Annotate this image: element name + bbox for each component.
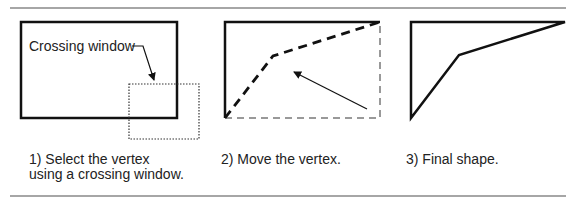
original-rectangle bbox=[21, 22, 177, 118]
crossing-window bbox=[129, 84, 199, 139]
final-shape bbox=[411, 22, 565, 118]
label-leader-arrow bbox=[132, 46, 154, 80]
caption-step-1: 1) Select the vertex using a crossing wi… bbox=[29, 152, 184, 182]
crossing-window-label: Crossing window bbox=[29, 38, 136, 54]
caption-step-3: 3) Final shape. bbox=[406, 152, 499, 167]
panel-2-move-vertex bbox=[225, 22, 380, 118]
move-direction-arrow bbox=[294, 72, 367, 109]
panel-1-select-vertex: Crossing window bbox=[21, 22, 199, 139]
caption-step-2: 2) Move the vertex. bbox=[221, 152, 341, 167]
caption-step-1-line-1: 1) Select the vertex bbox=[29, 152, 184, 167]
panel-3-final-shape bbox=[411, 22, 565, 118]
caption-step-1-line-2: using a crossing window. bbox=[29, 167, 184, 182]
